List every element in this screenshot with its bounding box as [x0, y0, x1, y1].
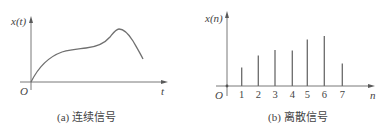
continuous-signal-plot: [20, 16, 168, 90]
x-axis-arrow-icon: [368, 84, 375, 88]
stems: [242, 36, 343, 86]
origin-dot: [226, 85, 229, 88]
x-tick-3: 3: [272, 90, 277, 101]
x-tick-4: 4: [290, 90, 295, 101]
left-y-label: x(t): [11, 16, 26, 27]
y-axis-arrow-icon: [29, 16, 33, 23]
continuous-signal-curve: [31, 29, 143, 82]
x-tick-1: 1: [239, 90, 244, 101]
left-x-label: t: [161, 86, 164, 97]
x-tick-2: 2: [256, 90, 261, 101]
y-axis-arrow-icon: [225, 11, 229, 18]
x-tick-6: 6: [322, 90, 327, 101]
right-caption: (b) 离散信号: [268, 108, 328, 124]
left-caption: (a) 连续信号: [57, 108, 116, 124]
x-tick-7: 7: [340, 90, 345, 101]
right-origin-label: O: [215, 90, 223, 101]
x-axis-arrow-icon: [161, 80, 168, 84]
left-origin-label: O: [20, 86, 28, 97]
right-y-label: x(n): [205, 13, 223, 24]
x-tick-5: 5: [305, 90, 310, 101]
right-x-label: n: [370, 90, 376, 101]
discrete-signal-plot: [216, 11, 375, 96]
